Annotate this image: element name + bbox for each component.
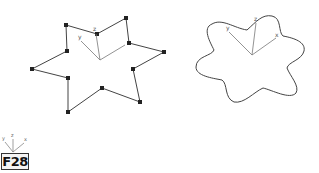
vertex-handles [30,16,166,114]
right-gizmo-z-label: z [254,15,257,22]
smooth-star-outline [196,16,304,103]
right-axis-gizmo [229,23,276,55]
left-gizmo-y-label: y [78,33,82,41]
right-gizmo-y-label: y [226,24,230,32]
diagram-canvas: z y z y x y z x [0,0,319,173]
corner-gizmo-z-label: z [11,132,14,138]
right-gizmo-x-label: x [275,31,279,38]
left-gizmo-z-label: z [93,25,96,32]
corner-axis-gizmo [5,139,24,152]
left-axis-gizmo [81,34,125,60]
figure-label: F28 [1,153,29,170]
corner-gizmo-y-label: y [2,135,5,142]
corner-gizmo-x-label: x [24,136,27,142]
